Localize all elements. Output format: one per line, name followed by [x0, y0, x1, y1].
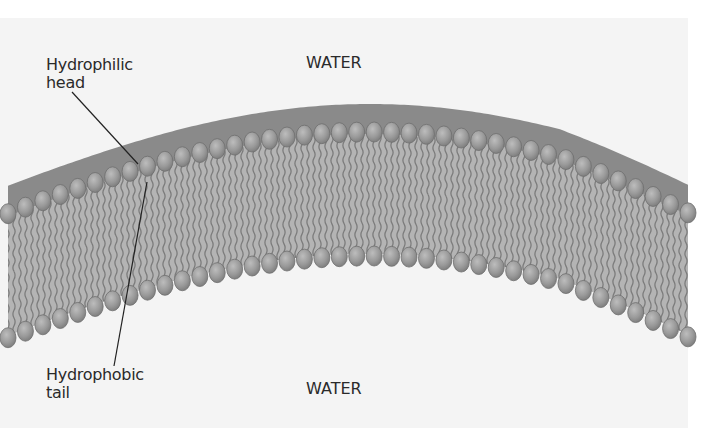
- water-label-bottom: WATER: [306, 380, 362, 398]
- phospholipid-head: [139, 280, 155, 300]
- phospholipid-head: [209, 263, 225, 283]
- phospholipid-head: [436, 250, 452, 270]
- phospholipid-head: [279, 251, 295, 271]
- phospholipid-head: [471, 131, 487, 151]
- phospholipid-head: [384, 122, 400, 142]
- phospholipid-head: [52, 185, 68, 205]
- phospholipid-head: [17, 321, 33, 341]
- phospholipid-head: [541, 144, 557, 164]
- phospholipid-head: [506, 137, 522, 157]
- phospholipid-head: [174, 147, 190, 167]
- hydrophobic-label-line2: tail: [46, 384, 144, 402]
- phospholipid-head: [157, 275, 173, 295]
- phospholipid-head: [209, 139, 225, 159]
- phospholipid-head: [227, 259, 243, 279]
- phospholipid-head: [384, 246, 400, 266]
- phospholipid-head: [70, 178, 86, 198]
- phospholipid-head: [227, 135, 243, 155]
- phospholipid-head: [610, 295, 626, 315]
- phospholipid-head: [262, 129, 278, 149]
- phospholipid-head: [366, 122, 382, 142]
- phospholipid-head: [105, 291, 121, 311]
- water-label-top: WATER: [306, 54, 362, 72]
- phospholipid-head: [401, 247, 417, 267]
- phospholipid-head: [279, 127, 295, 147]
- phospholipid-head: [680, 327, 696, 347]
- phospholipid-head: [157, 151, 173, 171]
- phospholipid-head: [488, 133, 504, 153]
- phospholipid-head: [244, 132, 260, 152]
- phospholipid-head: [52, 309, 68, 329]
- phospholipid-head: [575, 156, 591, 176]
- phospholipid-head: [436, 126, 452, 146]
- phospholipid-head: [17, 197, 33, 217]
- hydrophobic-label-line1: Hydrophobic: [46, 366, 144, 384]
- phospholipid-head: [296, 249, 312, 269]
- phospholipid-head: [645, 186, 661, 206]
- phospholipid-head: [35, 315, 51, 335]
- phospholipid-head: [645, 310, 661, 330]
- phospholipid-head: [192, 267, 208, 287]
- phospholipid-head: [296, 125, 312, 145]
- phospholipid-head: [0, 204, 16, 224]
- hydrophobic-tail-label: Hydrophobic tail: [46, 366, 144, 402]
- phospholipid-head: [401, 123, 417, 143]
- phospholipid-head: [366, 246, 382, 266]
- phospholipid-head: [680, 203, 696, 223]
- phospholipid-head: [122, 161, 138, 181]
- phospholipid-head: [331, 247, 347, 267]
- hydrophilic-label-line1: Hydrophilic: [46, 56, 133, 74]
- phospholipid-head: [628, 179, 644, 199]
- phospholipid-head: [663, 195, 679, 215]
- phospholipid-head: [663, 319, 679, 339]
- hydrophilic-label-line2: head: [46, 74, 133, 92]
- phospholipid-head: [593, 288, 609, 308]
- phospholipid-head: [471, 255, 487, 275]
- phospholipid-head: [506, 261, 522, 281]
- phospholipid-head: [87, 296, 103, 316]
- phospholipid-head: [523, 264, 539, 284]
- phospholipid-head: [453, 252, 469, 272]
- phospholipid-head: [453, 128, 469, 148]
- phospholipid-head: [314, 248, 330, 268]
- phospholipid-head: [262, 253, 278, 273]
- phospholipid-head: [105, 167, 121, 187]
- phospholipid-head: [628, 303, 644, 323]
- phospholipid-head: [523, 140, 539, 160]
- phospholipid-head: [122, 285, 138, 305]
- phospholipid-head: [418, 248, 434, 268]
- hydrophilic-head-label: Hydrophilic head: [46, 56, 133, 92]
- phospholipid-head: [87, 172, 103, 192]
- phospholipid-head: [0, 328, 16, 348]
- phospholipid-head: [575, 280, 591, 300]
- phospholipid-head: [610, 171, 626, 191]
- phospholipid-head: [139, 156, 155, 176]
- phospholipid-head: [558, 274, 574, 294]
- phospholipid-head: [314, 124, 330, 144]
- phospholipid-head: [349, 122, 365, 142]
- phospholipid-head: [541, 268, 557, 288]
- phospholipid-head: [192, 143, 208, 163]
- phospholipid-head: [349, 246, 365, 266]
- phospholipid-head: [593, 164, 609, 184]
- phospholipid-head: [331, 123, 347, 143]
- phospholipid-head: [488, 257, 504, 277]
- phospholipid-head: [244, 256, 260, 276]
- phospholipid-head: [70, 302, 86, 322]
- phospholipid-head: [35, 191, 51, 211]
- phospholipid-head: [174, 271, 190, 291]
- phospholipid-head: [418, 124, 434, 144]
- phospholipid-head: [558, 150, 574, 170]
